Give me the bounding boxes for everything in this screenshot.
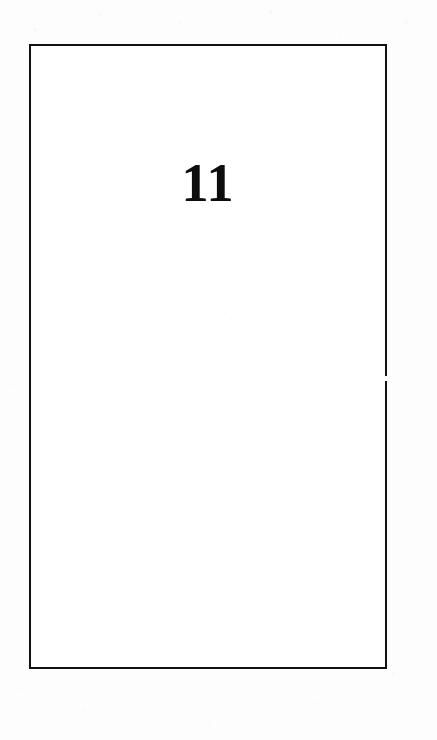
scanned-page-image: 11 [0, 0, 437, 740]
frame-rule-right-lower [385, 381, 387, 669]
frame-rule-top [29, 44, 387, 46]
frame-rule-right-upper [385, 44, 387, 376]
page-body-text [69, 274, 347, 654]
chapter-number: 11 [181, 156, 234, 210]
chapter-number-block: 11 [29, 156, 387, 210]
frame-rule-left [29, 44, 31, 669]
page-border-frame: 11 [29, 44, 387, 669]
frame-rule-bottom [29, 667, 387, 669]
